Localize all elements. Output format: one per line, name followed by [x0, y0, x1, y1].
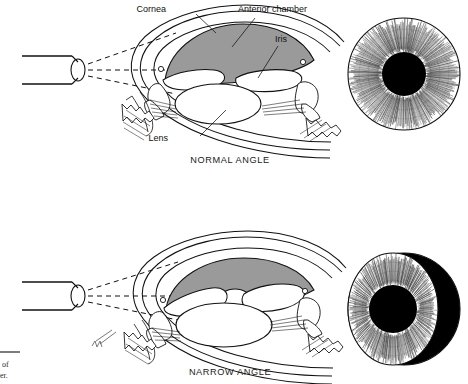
iris-front-normal	[348, 17, 460, 130]
label-iris: Iris	[275, 34, 287, 44]
pupil-normal	[382, 52, 426, 96]
lens-narrow	[176, 303, 272, 347]
label-lens: Lens	[148, 133, 168, 143]
figure-caption-line-2: er.	[0, 371, 8, 380]
caption-narrow-angle: NARROW ANGLE	[189, 367, 271, 377]
figure-page: Cornea Anterior chamber Iris Lens NORMAL…	[0, 0, 468, 384]
schlemm-canal-left-narrow	[160, 297, 165, 302]
schlemm-canal-right	[300, 59, 305, 64]
eye-angle-figure: Cornea Anterior chamber Iris Lens NORMAL…	[0, 0, 468, 384]
figure-caption-line-1: of	[2, 360, 9, 369]
label-anterior-chamber: Anterior chamber	[238, 4, 307, 14]
schlemm-canal-right-narrow	[302, 288, 307, 293]
iris-front-narrow	[348, 252, 460, 365]
pupil-narrow	[369, 285, 417, 333]
caption-normal-angle: NORMAL ANGLE	[190, 155, 269, 165]
label-cornea: Cornea	[136, 4, 166, 14]
schlemm-canal-left	[158, 66, 163, 71]
